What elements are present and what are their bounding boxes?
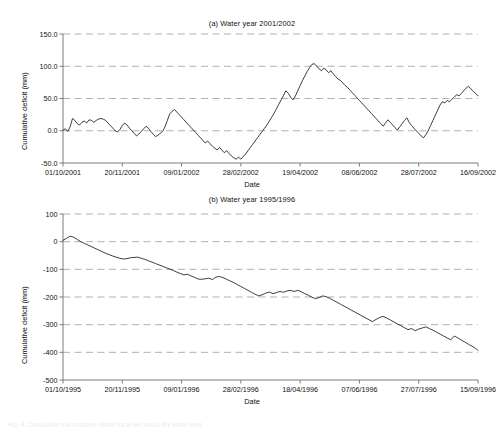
chart-ytick-label: 0.0 xyxy=(48,126,58,135)
chart-xtick-label: 28/02/1996 xyxy=(223,385,259,394)
chart-a-yaxis-title: Cumulative deficit (mm) xyxy=(20,72,29,150)
chart-ytick-label: -50.0 xyxy=(41,159,57,168)
chart-xtick-label: 09/01/2002 xyxy=(164,168,200,177)
chart-xtick-label: 18/04/1996 xyxy=(282,385,318,394)
chart-xtick-label: 20/11/2001 xyxy=(105,168,140,177)
chart-ytick-label: 150.0 xyxy=(40,30,58,39)
chart-xtick-label: 07/06/1996 xyxy=(341,385,377,394)
chart-b-plot: -500-400-300-200-100010001/10/199520/11/… xyxy=(0,192,504,414)
chart-b-yaxis-title: Cumulative deficit (mm) xyxy=(20,286,29,364)
chart-xtick-label: 01/10/2001 xyxy=(45,168,81,177)
chart-xtick-label: 09/01/1996 xyxy=(164,385,200,394)
chart-ytick-label: -400 xyxy=(43,348,57,357)
chart-xtick-label: 16/09/2002 xyxy=(460,168,496,177)
chart-ytick-label: 100 xyxy=(46,210,58,219)
chart-a-plot: -50.00.050.0100.0150.001/10/200120/11/20… xyxy=(0,0,504,196)
chart-xtick-label: 15/09/1996 xyxy=(460,385,496,394)
chart-panel-b: (b) Water year 1995/1996 -500-400-300-20… xyxy=(0,192,504,414)
chart-b-xaxis-title: Date xyxy=(0,397,504,406)
chart-a-xaxis-title: Date xyxy=(0,180,504,189)
chart-data-line xyxy=(63,236,478,350)
figure-container: (a) Water year 2001/2002 -50.00.050.0100… xyxy=(0,0,504,432)
chart-ytick-label: -200 xyxy=(43,293,57,302)
chart-ytick-label: -300 xyxy=(43,320,57,329)
chart-xtick-label: 19/04/2002 xyxy=(282,168,318,177)
chart-ytick-label: -500 xyxy=(43,376,57,385)
chart-xtick-label: 20/11/1995 xyxy=(105,385,140,394)
chart-xtick-label: 27/07/1996 xyxy=(401,385,437,394)
chart-xtick-label: 01/10/1995 xyxy=(45,385,81,394)
chart-ytick-label: 0 xyxy=(54,237,58,246)
chart-ytick-label: -100 xyxy=(43,265,57,274)
chart-ytick-label: 50.0 xyxy=(44,94,58,103)
chart-xtick-label: 28/02/2002 xyxy=(223,168,259,177)
chart-data-line xyxy=(63,64,478,159)
chart-panel-a: (a) Water year 2001/2002 -50.00.050.0100… xyxy=(0,0,504,196)
chart-xtick-label: 28/07/2002 xyxy=(401,168,437,177)
figure-caption: Fig. 4. Cumulative soil moisture deficit… xyxy=(8,421,498,428)
chart-xtick-label: 08/06/2002 xyxy=(341,168,377,177)
chart-ytick-label: 100.0 xyxy=(40,62,58,71)
